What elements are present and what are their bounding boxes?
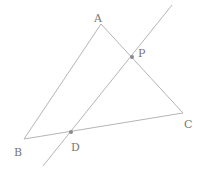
point-p-dot: [130, 55, 134, 59]
label-p: P: [138, 47, 146, 60]
segment-ac: [101, 24, 183, 113]
label-c: C: [184, 118, 192, 131]
line-pd: [43, 5, 172, 166]
label-d: D: [71, 141, 80, 154]
label-a: A: [93, 12, 103, 25]
segment-bc: [24, 113, 183, 139]
triangle-abc: [24, 24, 183, 139]
label-b: B: [14, 146, 22, 159]
geometry-diagram: A B C P D: [0, 0, 202, 171]
segment-ab: [24, 24, 101, 139]
point-d-dot: [69, 130, 73, 134]
